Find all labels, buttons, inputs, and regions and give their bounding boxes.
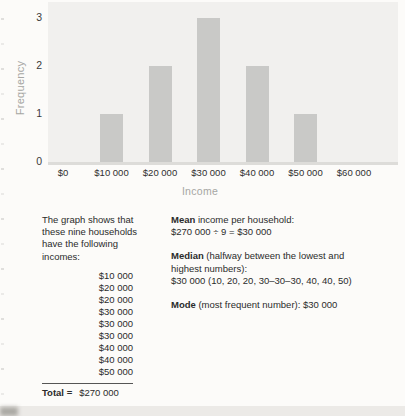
edge-mark xyxy=(1,118,4,120)
income-list: $10 000$20 000$20 000$30 000$30 000$30 0… xyxy=(42,270,133,378)
income-list-item: $30 000 xyxy=(42,306,133,318)
y-tick-label: 1 xyxy=(0,106,42,120)
mean-rest: income per household: xyxy=(195,214,294,225)
edge-mark xyxy=(1,68,4,70)
bar-20000 xyxy=(149,66,172,162)
y-tick-label: 2 xyxy=(0,58,42,72)
edge-mark xyxy=(1,168,4,170)
mean-block: Mean income per household: $270 000 ÷ 9 … xyxy=(171,214,401,238)
y-tick-label: 3 xyxy=(0,10,42,24)
x-axis-title: Income xyxy=(100,185,300,197)
edge-mark xyxy=(1,268,4,270)
bar-10000 xyxy=(100,114,123,162)
frequency-bar-chart: Frequency 0123 $0$10 000$20 000$30 000$4… xyxy=(0,0,405,205)
x-axis-ticks: $0$10 000$20 000$30 000$40 000$50 000$60… xyxy=(48,167,405,181)
mode-rest: (most frequent number): $30 000 xyxy=(196,299,338,310)
corner-smudge xyxy=(0,407,18,416)
edge-mark xyxy=(1,43,4,45)
total-value: $270 000 xyxy=(79,387,119,398)
mode-line1: Mode (most frequent number): $30 000 xyxy=(171,299,401,311)
income-list-item: $30 000 xyxy=(42,318,133,330)
page-bottom-edge xyxy=(0,406,405,416)
y-tick-label: 0 xyxy=(0,154,42,168)
intro-line: these nine households xyxy=(42,226,172,238)
median-label: Median xyxy=(171,250,204,261)
bar-50000 xyxy=(294,114,317,162)
median-line2: highest numbers): xyxy=(171,263,401,275)
intro-line: The graph shows that xyxy=(42,214,172,226)
mean-line2: $270 000 ÷ 9 = $30 000 xyxy=(171,226,401,238)
income-list-item: $50 000 xyxy=(42,366,133,378)
edge-mark xyxy=(1,318,4,320)
income-list-item: $10 000 xyxy=(42,270,133,282)
mode-block: Mode (most frequent number): $30 000 xyxy=(171,299,401,311)
median-rest: (halfway between the lowest and xyxy=(204,250,344,261)
edge-mark xyxy=(1,218,4,220)
intro-line: incomes: xyxy=(42,251,172,263)
edge-mark xyxy=(1,18,4,20)
total-line: Total =$270 000 xyxy=(42,387,172,399)
bar-30000 xyxy=(197,18,220,162)
income-list-item: $40 000 xyxy=(42,342,133,354)
median-block: Median (halfway between the lowest and h… xyxy=(171,250,401,287)
edge-mark xyxy=(1,243,4,245)
intro-paragraph: The graph shows thatthese nine household… xyxy=(42,214,172,263)
median-line3: $30 000 (10, 20, 20, 30–30–30, 40, 40, 5… xyxy=(171,275,401,287)
edge-mark xyxy=(1,193,4,195)
edge-mark xyxy=(1,343,4,345)
statistics-column: Mean income per household: $270 000 ÷ 9 … xyxy=(171,214,401,323)
scanned-page: Frequency 0123 $0$10 000$20 000$30 000$4… xyxy=(0,0,405,416)
total-rule xyxy=(42,383,133,384)
mode-label: Mode xyxy=(171,299,196,310)
intro-line: have the following xyxy=(42,238,172,250)
plot-area xyxy=(48,2,398,165)
edge-mark xyxy=(1,393,4,395)
edge-mark xyxy=(1,293,4,295)
income-list-item: $40 000 xyxy=(42,354,133,366)
bar-40000 xyxy=(246,66,269,162)
income-list-item: $30 000 xyxy=(42,330,133,342)
total-label: Total = xyxy=(42,387,72,398)
mean-line1: Mean income per household: xyxy=(171,214,401,226)
edge-mark xyxy=(1,368,4,370)
page-edge-marks xyxy=(0,0,6,416)
income-list-item: $20 000 xyxy=(42,294,133,306)
income-list-item: $20 000 xyxy=(42,282,133,294)
mean-label: Mean xyxy=(171,214,195,225)
x-tick-label: $60 000 xyxy=(324,167,384,179)
income-summary-column: The graph shows thatthese nine household… xyxy=(42,214,172,399)
median-line1: Median (halfway between the lowest and xyxy=(171,250,401,262)
edge-mark xyxy=(1,143,4,145)
edge-mark xyxy=(1,93,4,95)
